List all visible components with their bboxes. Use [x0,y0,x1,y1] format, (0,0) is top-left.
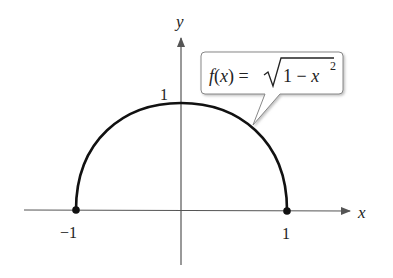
y-axis-label: y [174,12,184,31]
svg-text:f(x) =: f(x) = [209,66,249,87]
x-tick-1: 1 [282,225,290,242]
semicircle-graph: x y −1 1 1 f(x) = 1 − x 2 [0,0,393,278]
x-axis-label: x [357,203,366,222]
endpoint-left [72,206,80,214]
x-tick-neg1: −1 [60,224,77,241]
y-tick-1: 1 [160,86,168,103]
exponent: 2 [330,59,336,73]
svg-text:1 − x: 1 − x [283,66,319,86]
endpoint-right [283,207,291,215]
function-callout: f(x) = 1 − x 2 [201,52,343,125]
